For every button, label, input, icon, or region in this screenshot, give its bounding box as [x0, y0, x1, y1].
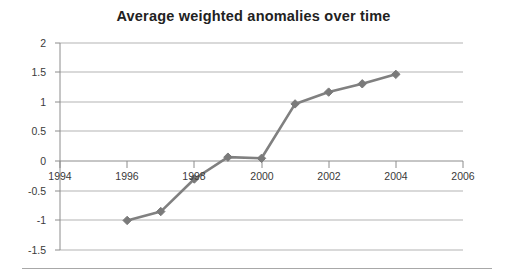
x-axis-label-2004: 2004 — [374, 170, 418, 182]
x-axis-label-2002: 2002 — [307, 170, 351, 182]
x-axis-label-2006: 2006 — [441, 170, 485, 182]
x-axis-label-1998: 1998 — [172, 170, 216, 182]
data-point-2002[interactable] — [324, 88, 332, 96]
y-axis-label-minus1: -1 — [0, 214, 46, 226]
x-axis-label-1996: 1996 — [105, 170, 149, 182]
chart-container: Average weighted anomalies over time — [0, 0, 507, 280]
line-chart-plot — [0, 0, 507, 280]
y-axis-label-minus1point5: -1.5 — [0, 244, 46, 256]
data-series-anomalies — [123, 70, 400, 224]
y-axis-label-0: 0 — [0, 155, 46, 167]
data-point-2003[interactable] — [358, 80, 366, 88]
y-axis-label-2: 2 — [0, 37, 46, 49]
data-point-1996[interactable] — [123, 216, 131, 224]
data-point-2004[interactable] — [392, 70, 400, 78]
x-axis-label-1994: 1994 — [38, 170, 82, 182]
footer-divider — [22, 268, 492, 269]
y-axis-label-1: 1 — [0, 96, 46, 108]
gridlines — [60, 43, 463, 250]
y-axis-label-minus0point5: -0.5 — [0, 185, 46, 197]
series-line — [127, 74, 396, 220]
x-axis-label-2000: 2000 — [240, 170, 284, 182]
y-axis — [55, 43, 60, 250]
y-axis-label-1point5: 1.5 — [0, 66, 46, 78]
y-axis-label-0point5: 0.5 — [0, 125, 46, 137]
